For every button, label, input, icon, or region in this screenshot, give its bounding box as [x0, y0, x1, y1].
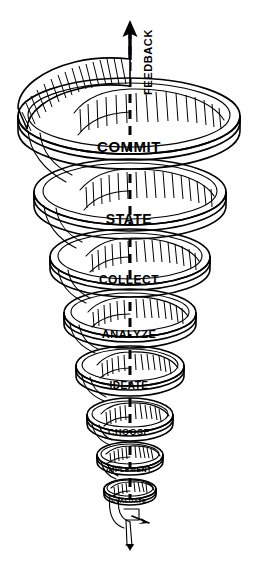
stage-label-collect: COLLECT [99, 273, 159, 287]
spiral-funnel-diagram: .ln{fill:none;stroke:#000;stroke-width:1… [0, 0, 255, 575]
stage-label-commit: COMMIT [97, 138, 161, 155]
stage-label-ideate: IDEATE [110, 380, 149, 391]
stage-label-analyze: ANALYZE [102, 328, 156, 340]
stage-label-choose: CHOOSE [108, 427, 150, 437]
feedback-label: FEEDBACK [142, 29, 154, 95]
stage-label-evaluate: EVALUATE [111, 498, 146, 504]
spiral-funnel-illustration: .ln{fill:none;stroke:#000;stroke-width:1… [0, 0, 255, 575]
stage-label-implement: IMPLEMENT [106, 466, 152, 473]
stage-label-state: STATE [106, 211, 152, 227]
